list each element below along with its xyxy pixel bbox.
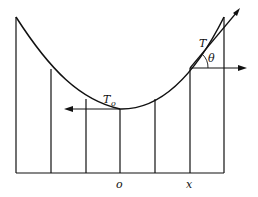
label-x: x xyxy=(186,178,193,191)
horizontal-arrowhead-icon xyxy=(238,65,247,71)
t0-arrowhead-icon xyxy=(64,106,73,112)
label-t0-sub: o xyxy=(111,99,116,108)
label-theta: θ xyxy=(208,52,215,65)
catenary-diagram: T θ T o o x xyxy=(0,0,258,197)
label-origin: o xyxy=(116,178,123,191)
cable-curve xyxy=(16,17,224,109)
